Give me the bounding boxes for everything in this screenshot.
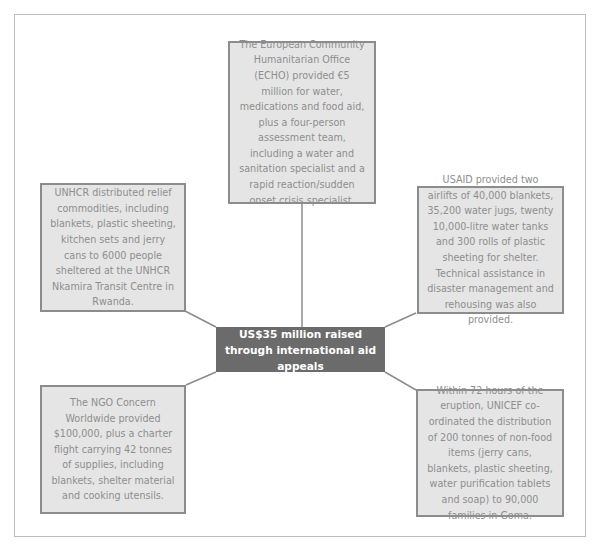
node-unhcr: UNHCR distributed relief commodities, in…: [40, 183, 186, 312]
connector-lower-right: [385, 372, 416, 390]
node-unicef: Within 72 hours of the eruption, UNICEF …: [416, 389, 564, 517]
node-concern-text: The NGO Concern Worldwide provided $100,…: [50, 395, 176, 504]
connector-upper-left: [185, 311, 216, 327]
node-unhcr-text: UNHCR distributed relief commodities, in…: [50, 185, 176, 310]
connector-upper-right: [385, 313, 416, 327]
central-node-text: US$35 million raised through internation…: [222, 326, 379, 374]
central-node: US$35 million raised through internation…: [216, 327, 385, 372]
node-usaid-text: USAID provided two airlifts of 40,000 bl…: [427, 172, 554, 328]
node-concern: The NGO Concern Worldwide provided $100,…: [40, 385, 186, 514]
connector-lower-left: [186, 372, 216, 385]
node-unicef-text: Within 72 hours of the eruption, UNICEF …: [426, 383, 554, 523]
node-echo: The European Community Humanitarian Offi…: [228, 41, 376, 204]
node-echo-text: The European Community Humanitarian Offi…: [238, 37, 366, 209]
node-usaid: USAID provided two airlifts of 40,000 bl…: [417, 186, 564, 314]
